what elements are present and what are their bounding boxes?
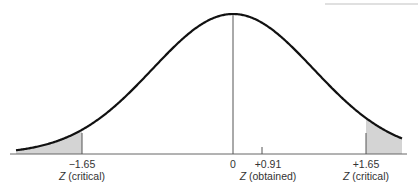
obtained-value: +0.91 (240, 158, 297, 170)
right-critical-caption: (critical) (352, 170, 389, 182)
obtained-caption: (obtained) (249, 170, 296, 182)
z-symbol: Z (59, 170, 65, 182)
left-critical-value: −1.65 (59, 158, 105, 170)
distribution-curve (16, 14, 402, 150)
left-rejection-region (16, 130, 82, 154)
z-symbol: Z (343, 170, 349, 182)
mean-value: 0 (230, 158, 236, 170)
right-critical-label: +1.65 Z (critical) (343, 158, 389, 182)
obtained-label: +0.91 Z (obtained) (240, 158, 297, 182)
left-critical-label: −1.65 Z (critical) (59, 158, 105, 182)
right-critical-value: +1.65 (343, 158, 389, 170)
mean-label: 0 (230, 158, 236, 170)
left-critical-caption: (critical) (68, 170, 105, 182)
z-symbol: Z (240, 170, 246, 182)
